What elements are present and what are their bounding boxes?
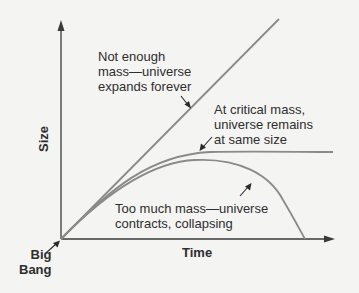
annotation-line: mass—universe bbox=[98, 64, 191, 79]
y-axis-label: Size bbox=[36, 126, 51, 152]
y-axis-arrow-icon bbox=[58, 20, 65, 31]
open-universe-pointer-arrow-icon bbox=[181, 96, 191, 109]
big-bang-label-line2: Bang bbox=[19, 262, 52, 277]
y-axis bbox=[58, 20, 65, 239]
annotation-line: expands forever bbox=[98, 79, 191, 94]
expansion-diagram: Size Time Big Bang Not enough mass—unive… bbox=[0, 0, 359, 293]
critical-universe-annotation: At critical mass, universe remains at sa… bbox=[214, 102, 313, 147]
closed-universe-annotation: Too much mass—universe contracts, collap… bbox=[115, 201, 268, 231]
x-axis-label: Time bbox=[182, 245, 212, 260]
annotation-line: universe remains bbox=[214, 117, 313, 132]
open-universe-annotation: Not enough mass—universe expands forever bbox=[98, 49, 191, 94]
big-bang-label-line1: Big bbox=[19, 247, 52, 262]
annotation-line: at same size bbox=[214, 132, 313, 147]
annotation-line: contracts, collapsing bbox=[115, 216, 268, 231]
x-axis bbox=[61, 236, 335, 243]
annotation-line: Not enough bbox=[98, 49, 191, 64]
critical-universe-pointer-arrow-icon bbox=[200, 137, 213, 151]
closed-universe-pointer-arrow-icon bbox=[240, 183, 252, 196]
x-axis-arrow-icon bbox=[324, 236, 335, 243]
annotation-line: Too much mass—universe bbox=[115, 201, 268, 216]
annotation-line: At critical mass, bbox=[214, 102, 313, 117]
big-bang-label: Big Bang bbox=[19, 247, 52, 277]
